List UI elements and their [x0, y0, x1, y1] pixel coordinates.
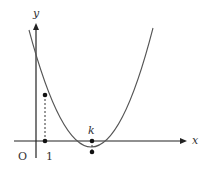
origin-label: O [18, 150, 27, 163]
parabola-diagram: y x O 1 k [0, 0, 205, 171]
point-axis-k [90, 139, 95, 144]
point-axis-1 [43, 139, 48, 144]
y-axis-arrow-icon [33, 23, 39, 30]
point-curve-at-1 [43, 93, 48, 98]
tick-label-k: k [88, 124, 95, 137]
x-axis-label: x [192, 134, 199, 147]
y-axis-label: y [32, 7, 40, 20]
point-vertex [90, 150, 95, 155]
tick-label-1: 1 [46, 150, 53, 163]
x-axis-arrow-icon [180, 138, 187, 144]
